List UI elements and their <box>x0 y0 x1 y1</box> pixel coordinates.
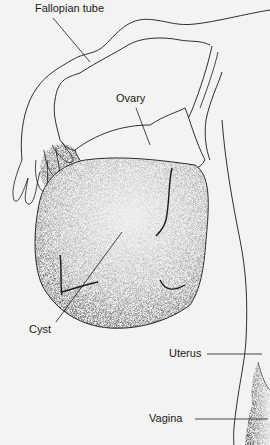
label-fallopian-tube: Fallopian tube <box>35 3 104 14</box>
label-ovary: Ovary <box>116 93 145 104</box>
uterus-outline <box>222 120 247 445</box>
label-uterus: Uterus <box>169 348 201 359</box>
label-cyst: Cyst <box>29 324 51 335</box>
vagina-shape <box>245 362 270 445</box>
anatomical-illustration <box>0 0 270 445</box>
label-vagina: Vagina <box>149 413 182 424</box>
